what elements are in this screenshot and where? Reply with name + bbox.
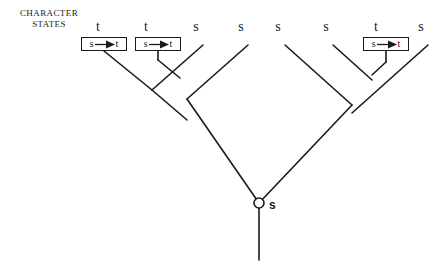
- transition-to-state: t: [170, 39, 173, 49]
- tip-label-6: s: [323, 19, 328, 35]
- tip-label-1: t: [96, 19, 100, 35]
- root-node-layer: [254, 198, 264, 208]
- root-node-circle: [254, 198, 264, 208]
- branch-right-stem: [259, 105, 352, 203]
- tip-label-7: t: [374, 19, 378, 35]
- tip-label-8: s: [418, 19, 423, 35]
- transition-to-state: t: [398, 39, 401, 49]
- branch-layer: [104, 45, 428, 260]
- branch-tip-8: [352, 45, 428, 113]
- arrow-right-icon: [95, 40, 115, 49]
- branch-node-c: [372, 62, 386, 75]
- legend-line-1: CHARACTER: [6, 8, 92, 19]
- tip-label-2: t: [144, 19, 148, 35]
- legend-line-2: STATES: [6, 19, 92, 30]
- transition-from-state: s: [90, 39, 94, 49]
- transition-to-state: t: [116, 39, 119, 49]
- transition-from-state: s: [144, 39, 148, 49]
- transition-from-state: s: [372, 39, 376, 49]
- transition-box-2: st: [135, 37, 181, 51]
- branch-left-stem: [187, 99, 259, 203]
- branch-node-b: [152, 90, 187, 120]
- arrow-right-icon: [377, 40, 397, 49]
- character-states-legend: CHARACTER STATES: [6, 8, 92, 30]
- root-state-label: s: [269, 198, 276, 212]
- tip-label-4: s: [238, 19, 243, 35]
- tip-label-3: s: [193, 19, 198, 35]
- arrow-right-icon: [149, 40, 169, 49]
- branch-tip-4: [187, 45, 248, 99]
- transition-box-1: st: [81, 37, 127, 51]
- branch-tip-1: [104, 51, 152, 90]
- tip-label-5: s: [275, 19, 280, 35]
- branch-tip-3: [152, 45, 203, 90]
- transition-box-3: st: [363, 37, 409, 51]
- figure-canvas: CHARACTER STATES ttssssts ststst s: [0, 0, 447, 262]
